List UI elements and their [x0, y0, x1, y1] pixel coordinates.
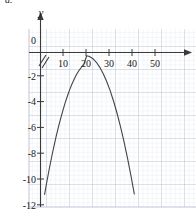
- y-axis-label: y: [38, 6, 44, 18]
- x-tick-label-0: 10: [58, 58, 68, 69]
- y-tick-label-3: -6: [28, 122, 36, 133]
- y-tick-label-4: -8: [28, 148, 36, 159]
- y-tick-label-2: -4: [28, 96, 36, 107]
- x-tick-label-4: 50: [150, 58, 160, 69]
- y-tick-label-1: -2: [28, 71, 36, 82]
- y-tick-label-6: -12: [23, 200, 36, 211]
- x-tick-label-3: 40: [127, 58, 137, 69]
- y-tick-label-0: 0: [31, 35, 36, 46]
- x-tick-label-2: 30: [104, 58, 114, 69]
- y-tick-label-5: -10: [23, 174, 36, 185]
- grid-major: [29, 29, 196, 207]
- x-tick-label-1: 20: [81, 58, 91, 69]
- parabola-chart: y 0 -2 -4 -6 -8 -10 -12 10 20 30 40 50: [0, 0, 196, 217]
- figure-container: a.: [0, 0, 196, 217]
